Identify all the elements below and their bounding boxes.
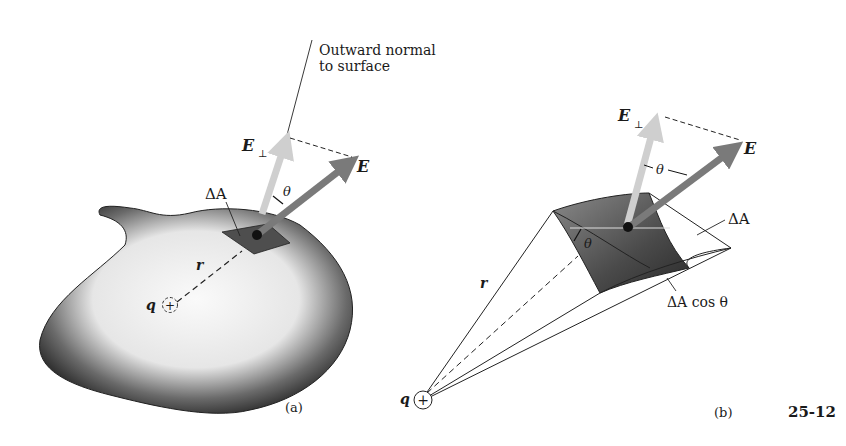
charge-label-b: q [400, 391, 410, 407]
field-point-b [623, 222, 633, 232]
theta-top-arrow-right [668, 170, 687, 175]
charge-sign-b: + [417, 392, 429, 408]
normal-label-line2: to surface [319, 58, 390, 74]
gauss-flux-diagram: + q r θ ΔA E ⊥ E Outward normal to surfa… [0, 0, 846, 446]
projection-dashed-line [290, 138, 352, 157]
cone-line-bottom [429, 293, 600, 396]
e-perp-label-b: E [617, 106, 631, 125]
e-perp-subscript-b: ⊥ [634, 119, 643, 130]
delta-a-label: ΔA [205, 185, 227, 203]
charge-sign: + [165, 299, 175, 313]
field-point [252, 230, 262, 240]
closed-surface [40, 206, 353, 413]
e-perp-label: E [241, 136, 255, 155]
delta-a-label-b: ΔA [728, 210, 750, 228]
e-perp-subscript: ⊥ [258, 148, 267, 159]
outward-normal-line [287, 40, 312, 135]
theta-label: θ [283, 184, 291, 199]
panel-a: + q r θ ΔA E ⊥ E Outward normal to surfa… [40, 40, 437, 415]
theta-patch-label: θ [584, 236, 592, 251]
delta-a-cos-label: ΔA cos θ [667, 294, 728, 310]
delta-a-cos-leader [667, 278, 676, 291]
e-label-b: E [743, 139, 757, 158]
charge-label: q [146, 297, 156, 313]
panel-b-caption: (b) [714, 405, 732, 420]
normal-label-line1: Outward normal [319, 42, 436, 58]
cone-line-dashed [427, 256, 578, 393]
theta-angle-arrow [273, 196, 283, 204]
figure-number: 25-12 [788, 403, 836, 421]
panel-a-caption: (a) [285, 400, 303, 415]
theta-top-label: θ [656, 162, 664, 177]
radius-label-b: r [480, 275, 489, 291]
e-label: E [356, 157, 370, 176]
panel-b: θ θ ΔA ΔA cos θ r + q E ⊥ E (b) [400, 106, 757, 420]
projection-dashed-line-b [665, 117, 740, 140]
